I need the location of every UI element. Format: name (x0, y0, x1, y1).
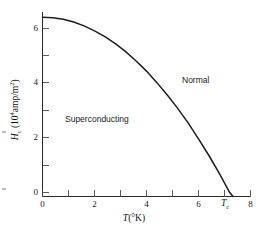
critical-field-curve (43, 17, 234, 196)
scan-artifact-speck (2, 188, 6, 190)
x-tick-label-4: 4 (140, 200, 154, 209)
x-tick-label-0: 0 (36, 200, 50, 209)
y-tick-label-0: 0 (26, 188, 38, 197)
y-axis-title-variable: H (10, 133, 20, 140)
critical-temperature-subscript: c (226, 203, 229, 210)
y-axis-ticks (43, 28, 50, 192)
y-axis-title: Hc (104amp/m2) (9, 50, 23, 170)
y-tick-label-6: 6 (26, 24, 38, 33)
normal-region-label: Normal (182, 76, 209, 85)
y-axis-title-subscript: c (15, 130, 22, 133)
x-axis-ticks (43, 190, 251, 197)
y-axis-title-unit-exponent: 4 (8, 112, 15, 115)
critical-temperature-label: Tc (221, 199, 229, 210)
x-tick-label-8: 8 (244, 200, 258, 209)
superconducting-region-label: Superconducting (65, 115, 129, 124)
y-axis-title-unit-close: ) (10, 79, 20, 82)
y-tick-label-4: 4 (26, 78, 38, 87)
x-axis-title-unit: (°K) (128, 213, 145, 223)
x-tick-label-6: 6 (192, 200, 206, 209)
superconductor-phase-diagram-figure: 0 2 4 6 8 0 2 4 6 Superconducting Normal… (0, 0, 268, 235)
y-tick-label-2: 2 (26, 133, 38, 142)
scan-artifact-speck (2, 131, 6, 133)
y-axis-title-unit-exponent-2: 2 (8, 83, 15, 86)
y-axis-title-unit-suffix: amp/m (10, 86, 20, 112)
x-tick-label-2: 2 (88, 200, 102, 209)
y-axis-title-unit-prefix: (10 (10, 115, 20, 130)
x-axis-title: T(°K) (0, 214, 268, 224)
